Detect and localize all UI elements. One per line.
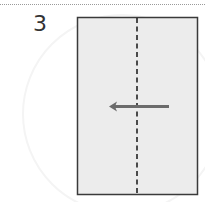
fold-diagram — [0, 0, 205, 202]
